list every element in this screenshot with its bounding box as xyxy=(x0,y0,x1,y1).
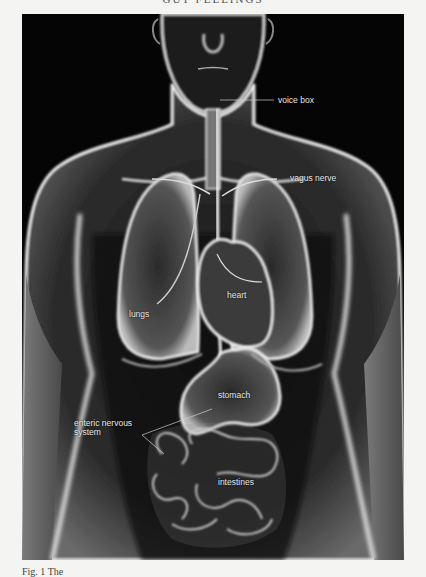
label-heart: heart xyxy=(227,291,246,300)
body-xray-graphic xyxy=(22,14,404,560)
label-vagus-nerve: vagus nerve xyxy=(290,174,336,183)
anatomy-illustration: voice box vagus nerve heart lungs stomac… xyxy=(22,14,404,560)
label-lungs: lungs xyxy=(129,310,149,319)
label-intestines: intestines xyxy=(218,478,254,487)
figure-caption: Fig. 1 The xyxy=(22,566,63,577)
label-enteric-nervous-system: enteric nervous system xyxy=(74,419,132,437)
label-enteric-line2: system xyxy=(74,427,101,437)
label-stomach: stomach xyxy=(218,391,250,400)
running-head: GUT FEELINGS xyxy=(0,0,426,5)
label-voice-box: voice box xyxy=(278,96,314,105)
